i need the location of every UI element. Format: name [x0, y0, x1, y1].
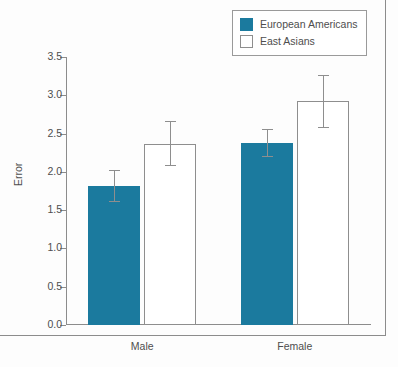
legend-entry-east-asians: East Asians [240, 33, 357, 50]
y-tick: 1.0 [66, 248, 72, 249]
filled-square-icon [240, 18, 253, 31]
bar-female-european-americans [241, 143, 293, 325]
y-tick: 3.0 [66, 95, 72, 96]
y-tick-label: 3.5 [47, 50, 62, 62]
bar-male-east-asians [144, 144, 196, 325]
legend-label-european-americans: European Americans [260, 18, 357, 31]
y-tick: 2.5 [66, 134, 72, 135]
x-axis-label-male: Male [131, 340, 154, 352]
bar-male-european-americans [88, 186, 140, 325]
y-axis-line [66, 57, 67, 325]
x-axis-label-female: Female [277, 340, 312, 352]
y-tick-label: 1.5 [47, 203, 62, 215]
y-tick-label: 0.0 [47, 318, 62, 330]
error-bar-cap-top [318, 75, 329, 76]
x-axis-labels: MaleFemale [66, 326, 371, 356]
bar-female-east-asians [297, 101, 349, 325]
error-bar-female-european-americans [267, 129, 268, 157]
chart-legend: European Americans East Asians [232, 10, 367, 56]
error-bar-male-east-asians [170, 121, 171, 167]
error-bar-cap-bottom [318, 127, 329, 128]
y-tick-label: 0.5 [47, 280, 62, 292]
y-tick-label: 3.0 [47, 88, 62, 100]
error-bar-male-european-americans [114, 170, 115, 202]
error-bar-cap-bottom [262, 156, 273, 157]
error-bar-cap-bottom [165, 165, 176, 166]
y-tick: 0.5 [66, 287, 72, 288]
hollow-square-icon [240, 35, 253, 48]
y-axis-title: Error [12, 163, 24, 186]
error-bar-cap-top [165, 121, 176, 122]
plot-area: 0.00.51.01.52.02.53.03.5 [66, 57, 371, 325]
y-tick: 1.5 [66, 210, 72, 211]
y-tick-label: 1.0 [47, 241, 62, 253]
legend-label-east-asians: East Asians [260, 35, 315, 48]
y-tick: 3.5 [66, 57, 72, 58]
y-tick-label: 2.5 [47, 127, 62, 139]
error-bar-cap-top [109, 170, 120, 171]
y-tick: 2.0 [66, 172, 72, 173]
chart-figure: European Americans East Asians Error 0.0… [0, 0, 398, 367]
error-bar-female-east-asians [323, 75, 324, 129]
y-tick-label: 2.0 [47, 165, 62, 177]
error-bar-cap-top [262, 129, 273, 130]
legend-entry-european-americans: European Americans [240, 16, 357, 33]
error-bar-cap-bottom [109, 201, 120, 202]
